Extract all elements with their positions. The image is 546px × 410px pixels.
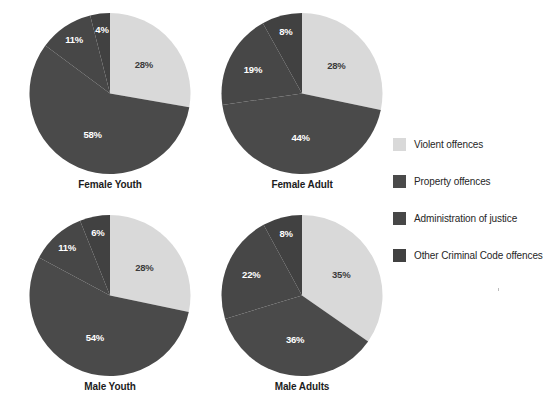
slice-value-label: 8%: [279, 26, 293, 37]
chart-title-male-adults: Male Adults: [218, 381, 386, 392]
slice-value-label: 35%: [332, 269, 351, 280]
pie-chart-figure: 28%58%11%4% Female Youth 28%44%19%8% Fem…: [0, 0, 546, 410]
pie-svg-1: 28%44%19%8%: [218, 12, 386, 175]
pie-wrap: 28%44%19%8%: [218, 12, 386, 175]
chart-title-female-youth: Female Youth: [26, 179, 194, 190]
legend-label: Administration of justice: [414, 213, 517, 224]
slice-value-label: 19%: [244, 64, 263, 75]
pie-wrap: 28%54%11%6%: [26, 214, 194, 377]
slice-value-label: 58%: [83, 129, 102, 140]
legend-item-administration-of-justice: Administration of justice: [393, 211, 543, 225]
pie-chart-female-adult: 28%44%19%8% Female Adult: [218, 12, 386, 197]
chart-title-male-youth: Male Youth: [26, 381, 194, 392]
slice-value-label: 6%: [91, 227, 105, 238]
legend-swatch-icon: [393, 212, 406, 225]
slice-value-label: 28%: [135, 262, 154, 273]
legend-swatch-icon: [393, 249, 406, 262]
legend-label: Property offences: [414, 176, 491, 187]
pie-wrap: 35%36%22%8%: [218, 214, 386, 377]
legend-swatch-icon: [393, 138, 406, 151]
slice-value-label: 36%: [286, 334, 305, 345]
pie-chart-male-youth: 28%54%11%6% Male Youth: [26, 214, 194, 399]
legend-item-property-offences: Property offences: [393, 174, 543, 188]
pie-svg-0: 28%58%11%4%: [26, 12, 194, 175]
slice-value-label: 28%: [135, 59, 154, 70]
slice-value-label: 44%: [291, 132, 310, 143]
scan-speck: [498, 288, 499, 291]
legend: Violent offences Property offences Admin…: [393, 137, 543, 285]
legend-label: Violent offences: [414, 139, 483, 150]
slice-value-label: 8%: [279, 228, 293, 239]
legend-label: Other Criminal Code offences: [414, 250, 543, 261]
legend-swatch-icon: [393, 175, 406, 188]
slice-value-label: 28%: [327, 60, 346, 71]
slice-value-label: 11%: [58, 242, 77, 253]
slice-value-label: 54%: [86, 332, 105, 343]
pie-svg-2: 28%54%11%6%: [26, 214, 194, 377]
pie-svg-3: 35%36%22%8%: [218, 214, 386, 377]
legend-item-violent-offences: Violent offences: [393, 137, 543, 151]
pie-chart-female-youth: 28%58%11%4% Female Youth: [26, 12, 194, 197]
pie-chart-male-adults: 35%36%22%8% Male Adults: [218, 214, 386, 399]
slice-value-label: 4%: [95, 24, 109, 35]
slice-value-label: 11%: [65, 34, 84, 45]
pie-wrap: 28%58%11%4%: [26, 12, 194, 175]
chart-title-female-adult: Female Adult: [218, 179, 386, 190]
legend-item-other-criminal-code-offences: Other Criminal Code offences: [393, 248, 543, 262]
slice-value-label: 22%: [242, 269, 261, 280]
